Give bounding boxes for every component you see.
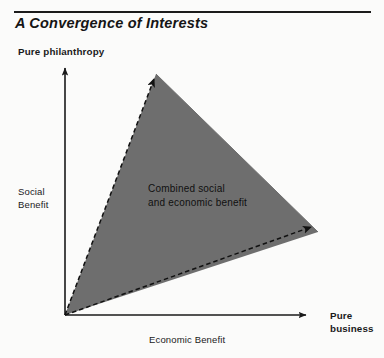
convergence-of-interests-figure: A Convergence of Interests Pure philanth…: [0, 0, 384, 358]
x-axis-end-label: Pure business: [330, 310, 374, 335]
combined-benefit-label: Combined social and economic benefit: [148, 182, 247, 210]
x-axis-label: Economic Benefit: [149, 334, 225, 347]
y-axis-label: Social Benefit: [18, 186, 49, 211]
y-axis-end-label: Pure philanthropy: [18, 46, 104, 59]
